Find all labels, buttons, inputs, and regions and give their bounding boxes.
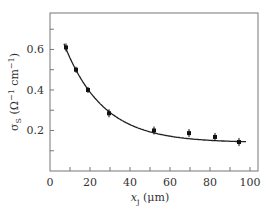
axis-ticks	[50, 29, 250, 171]
y-axis-label: σS (Ω−1 cm−1)	[7, 53, 23, 131]
data-point	[213, 133, 217, 141]
x-tick-label: 80	[203, 176, 217, 189]
tick-labels: 0204060801000.20.40.6	[27, 43, 261, 189]
x-tick-label: 0	[47, 176, 54, 189]
x-tick-label: 60	[163, 176, 177, 189]
data-point	[187, 129, 191, 137]
x-tick-label: 20	[83, 176, 97, 189]
y-tick-label: 0.6	[27, 43, 45, 56]
x-tick-label: 100	[240, 176, 261, 189]
plot-frame	[50, 13, 258, 171]
y-tick-label: 0.4	[27, 84, 45, 97]
chart: 0204060801000.20.40.6 xj (μm) σS (Ω−1 cm…	[0, 0, 270, 208]
x-tick-label: 40	[123, 176, 137, 189]
data-point	[237, 138, 241, 146]
x-axis-label: xj (μm)	[131, 191, 169, 206]
fit-curve	[64, 44, 246, 142]
data-points	[64, 43, 241, 146]
y-tick-label: 0.2	[27, 124, 45, 137]
